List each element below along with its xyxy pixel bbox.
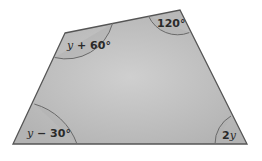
angle-label-bottom-left: y − 30° bbox=[26, 127, 71, 140]
angle-label-bottom-right: 2y bbox=[222, 129, 237, 142]
angle-label-top-left: y + 60° bbox=[66, 39, 111, 52]
quadrilateral-diagram: y + 60° 120° y − 30° 2y bbox=[0, 0, 262, 161]
angle-label-top-right: 120° bbox=[157, 17, 185, 30]
quadrilateral-shape bbox=[13, 10, 247, 144]
